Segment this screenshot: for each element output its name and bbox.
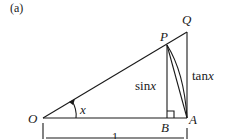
label-A: A xyxy=(188,112,197,127)
panel-label: (a) xyxy=(10,1,23,15)
label-B: B xyxy=(161,120,169,135)
trig-inequality-diagram: (a) O A B P Q x sinx tanx 1 xyxy=(0,0,228,139)
label-sinx: sinx xyxy=(135,78,156,93)
label-O: O xyxy=(28,111,38,126)
chord-PA xyxy=(167,45,187,118)
segment-OQ xyxy=(43,32,187,118)
label-P: P xyxy=(159,29,168,44)
label-length-1: 1 xyxy=(112,130,118,139)
right-angle-marker xyxy=(167,111,174,118)
label-Q: Q xyxy=(182,12,192,27)
label-angle-x: x xyxy=(79,102,86,117)
label-tanx: tanx xyxy=(192,68,214,83)
